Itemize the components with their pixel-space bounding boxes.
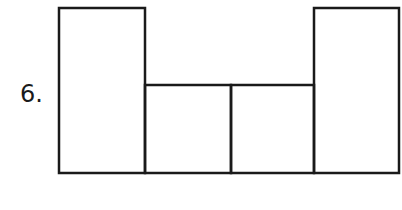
center-right-square (231, 85, 314, 173)
center-left-square (145, 85, 231, 173)
composite-rectangle-figure (0, 0, 402, 210)
right-tall-rectangle (314, 8, 399, 173)
left-tall-rectangle (59, 8, 145, 173)
